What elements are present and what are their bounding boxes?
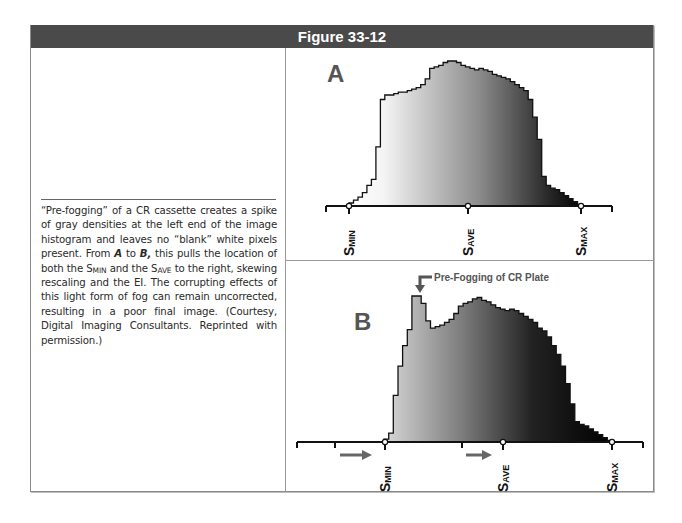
svg-text:SMIN: SMIN bbox=[341, 230, 357, 256]
axis-b: SMINSAVESMAX bbox=[297, 439, 643, 492]
prefog-arrowhead-icon bbox=[415, 285, 425, 293]
histogram-a-bars bbox=[349, 61, 582, 206]
svg-text:SMAX: SMAX bbox=[573, 227, 589, 256]
panel-label-a: A bbox=[327, 60, 344, 87]
axis-a: SMINSAVESMAX bbox=[326, 203, 612, 256]
svg-text:SMIN: SMIN bbox=[377, 466, 393, 492]
histogram-b: B Pre-Fogging of CR Plate SMINSAVESMAX bbox=[297, 272, 643, 492]
prefog-annotation: Pre-Fogging of CR Plate bbox=[434, 272, 549, 283]
panel-label-b: B bbox=[354, 308, 371, 335]
histogram-charts: A SMINSAVESMAX B Pre-Fogging of CR Plate… bbox=[0, 0, 682, 523]
shift-arrow-icon bbox=[340, 450, 372, 460]
shift-arrow-icon bbox=[466, 450, 492, 460]
svg-text:SAVE: SAVE bbox=[495, 465, 511, 492]
svg-text:SAVE: SAVE bbox=[460, 229, 476, 256]
svg-text:SMAX: SMAX bbox=[604, 463, 620, 492]
histogram-b-bars bbox=[384, 296, 612, 442]
prefog-arrow-icon bbox=[420, 277, 432, 286]
histogram-a: A SMINSAVESMAX bbox=[326, 60, 612, 256]
